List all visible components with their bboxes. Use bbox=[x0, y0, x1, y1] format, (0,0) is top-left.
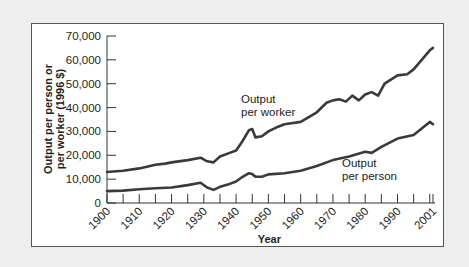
y-tick-label: 0 bbox=[95, 197, 101, 209]
x-axis-title: Year bbox=[258, 233, 282, 245]
x-tick-label: 2001 bbox=[412, 205, 439, 232]
x-tick-label: 1970 bbox=[312, 205, 339, 232]
x-tick-label: 1920 bbox=[150, 205, 177, 232]
x-tick-label: 1990 bbox=[376, 205, 403, 232]
x-tick-label: 1980 bbox=[344, 205, 371, 232]
x-tick-label: 1960 bbox=[279, 205, 306, 232]
y-axis-title: Output per person or bbox=[42, 63, 54, 174]
line-chart: 010,00020,00030,00040,00050,00060,00070,… bbox=[0, 0, 469, 267]
y-tick-label: 10,000 bbox=[66, 173, 101, 185]
series-label-person: per person bbox=[342, 170, 397, 182]
y-axis-title: per worker (1996 $) bbox=[54, 69, 66, 170]
y-tick-label: 70,000 bbox=[66, 30, 101, 42]
x-tick-label: 1910 bbox=[118, 205, 145, 232]
x-tick-label: 1950 bbox=[247, 205, 274, 232]
series-label-person: Output bbox=[342, 157, 377, 169]
x-tick-label: 1940 bbox=[215, 205, 242, 232]
y-tick-label: 60,000 bbox=[66, 54, 101, 66]
y-tick-label: 50,000 bbox=[66, 78, 101, 90]
y-tick-label: 20,000 bbox=[66, 149, 101, 161]
y-tick-label: 40,000 bbox=[66, 102, 101, 114]
x-tick-label: 1930 bbox=[183, 205, 210, 232]
series-label-worker: per worker bbox=[241, 106, 295, 118]
x-tick-label: 1900 bbox=[86, 205, 113, 232]
y-tick-label: 30,000 bbox=[66, 125, 101, 137]
series-label-worker: Output bbox=[241, 93, 276, 105]
